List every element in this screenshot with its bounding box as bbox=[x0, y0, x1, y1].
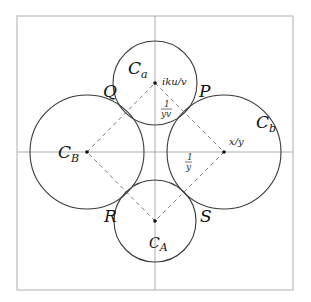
tangent-label-r: R bbox=[103, 206, 117, 226]
dash-cA-cB bbox=[87, 152, 155, 221]
center-dot-cB bbox=[85, 150, 89, 154]
fraction-1-over-yv: 1 yv bbox=[160, 99, 172, 119]
center-dot-cA bbox=[153, 219, 157, 223]
tangent-label-p: P bbox=[198, 81, 211, 101]
fraction-1-over-y: 1 y bbox=[185, 152, 193, 172]
label-cb: Cb bbox=[256, 112, 276, 135]
dash-cB-ca bbox=[87, 83, 155, 152]
svg-text:y: y bbox=[185, 162, 192, 172]
center-dot-ca bbox=[153, 81, 157, 85]
svg-text:yv: yv bbox=[160, 109, 171, 119]
center-dot-cb bbox=[222, 150, 226, 154]
svg-text:1: 1 bbox=[164, 99, 170, 109]
label-cA: CA bbox=[149, 235, 168, 254]
tangent-label-s: S bbox=[200, 206, 212, 226]
svg-text:1: 1 bbox=[187, 152, 193, 162]
annotation-cb-center: x/y bbox=[229, 136, 244, 147]
label-cB: CB bbox=[58, 142, 79, 165]
tangent-label-q: Q bbox=[103, 81, 117, 101]
tangent-circles-diagram: Ca Cb CB CA iku/v x/y Q P R S 1 yv 1 y bbox=[0, 0, 311, 302]
label-ca: Ca bbox=[128, 58, 148, 81]
annotation-ca-center: iku/v bbox=[162, 76, 187, 87]
